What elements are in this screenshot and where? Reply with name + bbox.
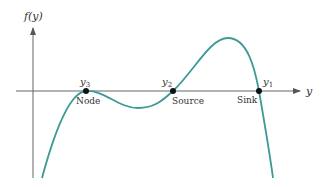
phase-line-diagram: f(y) y y3 y2 y1 Node Source Sink [0, 0, 329, 187]
label-source: Source [172, 96, 204, 106]
f-curve [42, 38, 273, 178]
y-axis-label: f(y) [23, 10, 43, 23]
label-y2: y2 [161, 76, 172, 89]
label-sink: Sink [237, 95, 258, 105]
x-axis-label: y [305, 85, 313, 98]
label-y1: y1 [262, 76, 273, 89]
label-node: Node [76, 96, 100, 106]
equilibrium-point-y1 [256, 88, 262, 94]
label-y3: y3 [79, 76, 90, 89]
